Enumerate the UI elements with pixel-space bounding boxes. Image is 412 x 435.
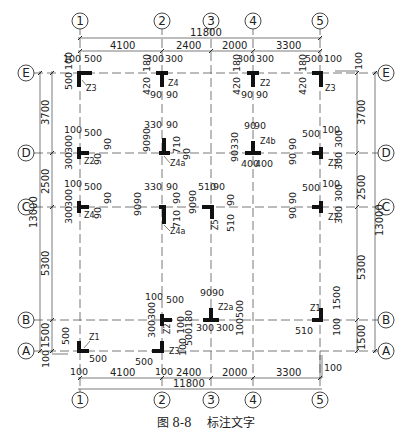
axis-bubble-bottom-4: 4 [249,393,257,407]
dim-B3-a: 90 [200,287,212,298]
axis-bubble-left-B: B [22,313,30,327]
column-shape-l [77,341,89,353]
column-E1[interactable]: 100 500 100 500 Z3 [63,52,102,93]
column-shape-t [245,141,261,155]
dim-C5-d: 90 [287,192,298,204]
dim-A2-c: 500 [183,328,194,346]
column-D1[interactable]: 100 500 300 300 90 90 Z2 [63,124,113,170]
right-total-dim: 13000 [374,204,385,236]
column-C2[interactable]: 330 90 90 90 710 90 Z4a [132,181,186,236]
column-shape-l [312,71,323,87]
dim-B5-b: 100 [331,318,342,336]
dim-E4-c: 180 [231,54,242,72]
column-tag-A2: Z3 [169,347,180,356]
column-tag-E2: Z4 [168,79,179,88]
dim-D1-d: 300 [63,152,74,170]
column-shape-t [247,71,259,87]
axis-bubble-bottom-1: 1 [76,393,84,407]
dim-C2-e: 710 [171,210,182,228]
dim-E2-b: 300 [165,53,183,64]
column-tag-C2: Z4a [170,227,186,236]
top-span-4-5: 3300 [276,40,301,51]
column-shape-t [156,71,168,87]
axis-bubble-left-D: D [21,146,30,160]
left-dimensions: 13000 3700 2500 5300 1500 100 [28,71,68,368]
dim-B5-a: 1500 [331,286,342,310]
axis-bubbles-bottom: 1 2 3 4 5 [72,389,328,408]
top-total-dim: 11800 [190,27,222,38]
axis-bubble-left-E: E [22,66,30,80]
dim-C1-f: 90 [102,192,113,204]
column-tag-E1: Z3 [86,84,97,93]
column-A1[interactable]: 500 500 Z1 [60,327,107,364]
column-D2[interactable]: 330 90 90 90 710 90 Z4a [141,119,192,168]
bottom-offset-axis-1: 100 [70,366,88,377]
dim-E5-d: 420 [297,77,308,95]
dim-B2-b: 500 [166,294,184,305]
right-offset-top: 100 [353,52,364,70]
dim-C1-d: 300 [63,206,74,224]
column-tag-B5: Z1 [310,304,321,313]
dim-B3-c: 500 [234,300,245,318]
bottom-offset-axis-2: 100 [155,366,173,377]
dim-D2-d: 90 [141,128,152,140]
dim-E1-b: 500 [84,53,102,64]
dim-D5-d: 90 [287,138,298,150]
dim-A2-a: 500 [135,356,153,367]
column-C3[interactable]: 510 90 90 90 90 510 Z5 [187,181,236,232]
axis-bubble-top-4: 4 [249,14,257,28]
dim-B2-a: 100 [145,291,163,302]
column-E2[interactable]: 300 300 180 420 90 90 Z4 [141,53,183,100]
dim-C2-a: 330 [144,181,162,192]
dim-C3-d: 90 [187,190,198,202]
column-layout-plan: 1 2 3 4 5 1 2 3 4 5 E D C B A [0,0,412,435]
column-B3[interactable]: 90 90 500 100 300 300 Z2a [196,287,245,336]
dim-D5-c: 90 [287,153,298,165]
axis-bubble-left-A: A [22,344,31,358]
dim-B3-b: 90 [212,287,224,298]
dim-D2-c: 90 [141,140,152,152]
right-span-D-C: 2500 [356,175,367,200]
column-C1[interactable]: 100 500 300 300 90 90 Z4 [63,178,113,224]
dim-E2-f: 90 [166,89,178,100]
dim-E5-c: 180 [297,54,308,72]
dim-A1-b: 500 [89,353,107,364]
column-E5[interactable]: 500 100 180 420 Z3 [297,53,342,95]
top-span-3-4: 2000 [222,40,247,51]
left-offset-bottom: 100 [40,350,51,368]
column-tag-C3: Z5 [211,219,220,230]
column-tag-B3: Z2a [218,303,234,312]
bottom-offset-axis-5: 100 [324,362,342,373]
dim-C3-b: 90 [213,181,225,192]
dim-D2-b: 90 [166,119,178,130]
dim-D5-a: 500 [302,128,320,139]
dim-D4-b: 90 [254,120,266,131]
bottom-span-4-5: 3300 [276,367,301,378]
dim-E1-c: 100 [63,52,74,70]
dim-B3-d: 100 [234,318,245,336]
column-shape-l [202,205,214,219]
axis-bubble-bottom-5: 5 [316,393,324,407]
column-tag-B2: Z2 [163,323,172,334]
axis-bubble-top-1: 1 [76,14,84,28]
axis-bubble-top-5: 5 [316,14,324,28]
right-span-B-A: 1500 [356,325,367,350]
dim-C5-a: 500 [302,182,320,193]
column-tag-E4: Z2 [260,79,271,88]
dim-B2-d: 300 [146,320,157,338]
column-C5[interactable]: 500 100 90 90 300 300 Z2 [287,178,344,224]
dim-E4-e: 90 [241,89,253,100]
dim-E4-f: 90 [256,89,268,100]
top-span-2-3: 2400 [176,40,201,51]
column-E4[interactable]: 300 300 180 420 90 90 Z2 [231,53,274,100]
dim-E2-e: 90 [150,89,162,100]
column-B5[interactable]: 1500 100 510 Z1 [295,286,342,336]
column-D5[interactable]: 500 100 90 90 300 300 Z2 [287,124,344,170]
right-span-E-D: 3700 [356,100,367,125]
left-span-C-B: 5300 [40,251,51,276]
dim-B3-f: 300 [216,322,234,333]
dim-C1-c: 300 [63,189,74,207]
dim-D1-a: 100 [64,124,82,135]
dim-C5-c: 90 [287,207,298,219]
column-D4[interactable]: 90 90 90 330 400 400 Z4b [229,120,276,169]
